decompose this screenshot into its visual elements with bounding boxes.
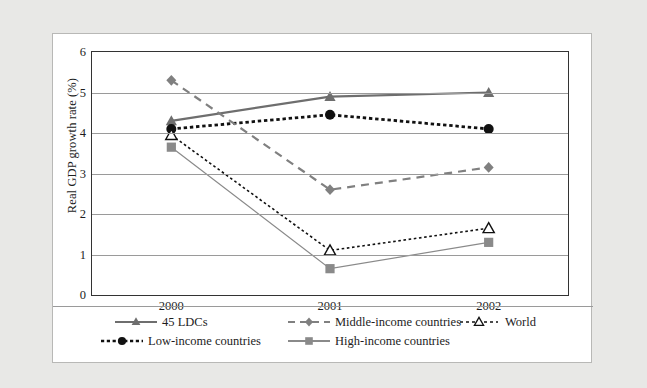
legend-label-low-income: Low-income countries [148, 335, 261, 348]
plot-wrapper: Real GDP growth rate (%) 012345620002001… [53, 34, 593, 306]
legend-swatch-45-ldcs [115, 315, 157, 329]
y-tick-label-6: 6 [80, 45, 86, 60]
y-tick-label-5: 5 [80, 85, 86, 100]
data-point [325, 110, 335, 120]
legend-swatch-world [458, 315, 500, 329]
y-tick-label-1: 1 [80, 247, 86, 262]
figure-panel: Real GDP growth rate (%) 012345620002001… [52, 33, 592, 363]
legend-item-high-income[interactable]: High-income countries [288, 334, 450, 348]
gridline-y-2 [92, 214, 568, 215]
legend-label-high-income: High-income countries [335, 335, 450, 348]
legend-item-world[interactable]: World [458, 315, 536, 329]
y-tick-label-2: 2 [80, 207, 86, 222]
legend-item-middle-income[interactable]: Middle-income countries [288, 315, 461, 329]
data-point [166, 75, 176, 86]
gridline-y-4 [92, 133, 568, 134]
legend-label-middle-income: Middle-income countries [335, 316, 461, 329]
legend-label-world: World [505, 316, 536, 329]
plot-area: 0123456200020012002 [91, 51, 569, 296]
y-tick-label-4: 4 [80, 126, 86, 141]
y-axis-title: Real GDP growth rate (%) [65, 31, 80, 261]
chart-legend: 45 LDCs Low-income countries Middle-inco… [53, 306, 593, 364]
y-tick-label-0: 0 [80, 288, 86, 303]
data-point [325, 184, 335, 195]
legend-swatch-low-income [101, 334, 143, 348]
legend-swatch-high-income [288, 334, 330, 348]
legend-item-low-income[interactable]: Low-income countries [101, 334, 261, 348]
data-point [167, 143, 176, 152]
legend-swatch-middle-income [288, 315, 330, 329]
data-point [484, 162, 494, 173]
data-point [483, 223, 494, 233]
gridline-y-1 [92, 255, 568, 256]
data-point [325, 264, 334, 273]
y-tick-label-3: 3 [80, 166, 86, 181]
legend-item-45-ldcs[interactable]: 45 LDCs [115, 315, 208, 329]
legend-label-45-ldcs: 45 LDCs [162, 316, 208, 329]
gridline-y-3 [92, 174, 568, 175]
data-point [484, 238, 493, 247]
gridline-y-5 [92, 93, 568, 94]
